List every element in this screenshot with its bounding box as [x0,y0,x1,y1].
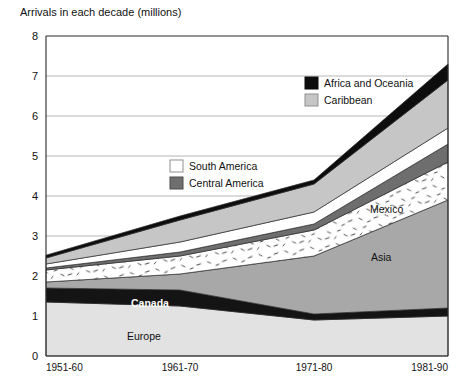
x-tick-1981-90: 1981-90 [411,362,448,373]
legend-label-africa-and-oceania: Africa and Oceania [324,77,413,89]
x-axis-tick-labels: 1951-601961-701971-801981-90 [46,362,448,373]
y-axis-tick-labels: 012345678 [32,30,38,362]
y-tick-7: 7 [32,70,38,82]
legend-swatch-central-america [170,177,183,189]
legend-label-central-america: Central America [189,177,264,189]
y-tick-0: 0 [32,350,38,362]
x-tick-1951-60: 1951-60 [46,362,83,373]
y-tick-5: 5 [32,150,38,162]
legend-swatch-caribbean [305,94,318,106]
x-tick-1961-70: 1961-70 [162,362,199,373]
legend-label-caribbean: Caribbean [324,94,373,106]
legend-swatch-africa-and-oceania [305,77,318,89]
series-label-canada: Canada [131,297,169,309]
y-tick-8: 8 [32,30,38,42]
legend-swatch-south-america [170,160,183,172]
series-label-europe: Europe [127,330,161,342]
area-chart-figure: Arrivals in each decade (millions) [0,0,466,378]
x-tick-1971-80: 1971-80 [296,362,333,373]
y-tick-6: 6 [32,110,38,122]
y-tick-3: 3 [32,230,38,242]
y-tick-4: 4 [32,190,38,202]
y-tick-2: 2 [32,270,38,282]
series-label-asia: Asia [371,251,392,263]
y-tick-1: 1 [32,310,38,322]
series-label-mexico: Mexico [370,203,403,215]
legend-label-south-america: South America [189,160,257,172]
chart-canvas: MexicoAsiaCanadaEurope0123456781951-6019… [0,0,466,378]
